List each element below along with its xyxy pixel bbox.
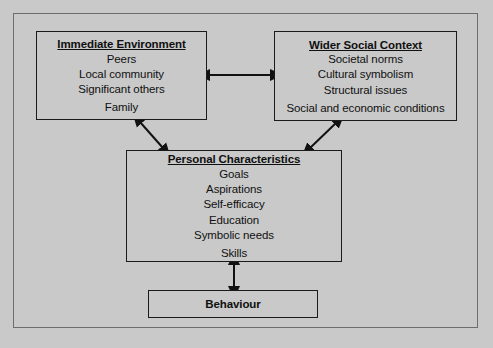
node-immediate-environment-item-3: Significant others xyxy=(78,82,164,97)
node-behaviour: Behaviour xyxy=(148,290,318,318)
node-immediate-environment-item-4: Family xyxy=(105,100,138,115)
node-behaviour-title: Behaviour xyxy=(205,297,260,311)
diagram-canvas: Wider Social Context --> Personal Charac… xyxy=(0,0,493,348)
node-personal-characteristics-item-5: Symbolic needs xyxy=(194,228,274,243)
node-immediate-environment-title: Immediate Environment xyxy=(57,37,185,51)
node-immediate-environment-item-2: Local community xyxy=(79,67,164,82)
node-personal-characteristics-item-4: Education xyxy=(209,213,259,228)
node-personal-characteristics-item-3: Self-efficacy xyxy=(203,197,264,212)
node-personal-characteristics-title: Personal Characteristics xyxy=(168,152,300,166)
node-wider-social-context-item-3: Structural issues xyxy=(324,83,407,98)
node-personal-characteristics-item-1: Goals xyxy=(219,167,249,182)
node-wider-social-context-item-1: Societal norms xyxy=(328,52,403,67)
node-personal-characteristics-item-2: Aspirations xyxy=(206,182,262,197)
node-immediate-environment: Immediate Environment Peers Local commun… xyxy=(36,31,207,120)
node-immediate-environment-item-1: Peers xyxy=(107,52,137,67)
node-wider-social-context-item-2: Cultural symbolism xyxy=(318,67,413,82)
node-personal-characteristics-item-6: Skills xyxy=(221,246,247,261)
node-wider-social-context-title: Wider Social Context xyxy=(309,38,422,52)
node-personal-characteristics: Personal Characteristics Goals Aspiratio… xyxy=(126,150,342,262)
node-wider-social-context-item-4: Social and economic conditions xyxy=(286,101,444,116)
node-wider-social-context: Wider Social Context Societal norms Cult… xyxy=(274,31,457,121)
